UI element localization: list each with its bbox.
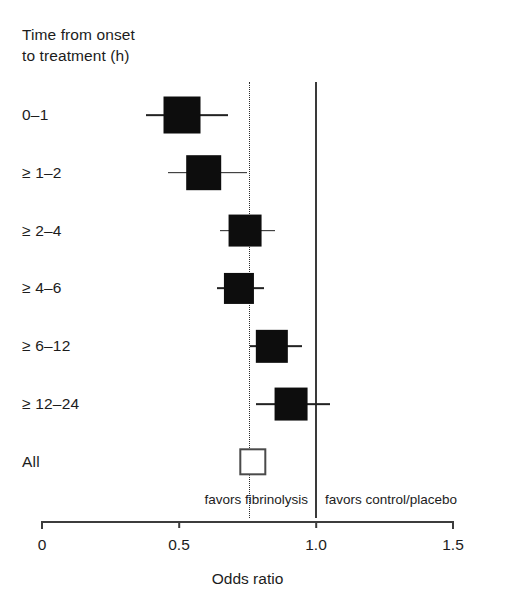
reference-line-unity	[315, 82, 317, 518]
row-label: ≥ 1–2	[22, 164, 62, 182]
axis-end-cap	[452, 521, 454, 529]
row-label: 0–1	[22, 106, 48, 124]
axis-tick-label: 0.5	[168, 536, 190, 554]
forest-plot: Time from onset to treatment (h) 0–1≥ 1–…	[0, 0, 511, 608]
chart-header-label: Time from onset to treatment (h)	[22, 24, 135, 66]
pooled-estimate-marker	[239, 448, 266, 475]
row-label: All	[22, 453, 40, 471]
axis-tick	[315, 521, 317, 528]
study-estimate-marker	[256, 330, 288, 362]
axis-tick-label: 1.0	[305, 536, 327, 554]
axis-end-cap	[41, 521, 43, 529]
row-label: ≥ 2–4	[22, 222, 62, 240]
study-estimate-marker	[163, 97, 200, 134]
row-label: ≥ 12–24	[22, 395, 79, 413]
study-estimate-marker	[228, 214, 261, 247]
axis-baseline	[42, 521, 453, 523]
favors-fibrinolysis-label: favors fibrinolysis	[204, 492, 308, 507]
x-axis-title: Odds ratio	[212, 570, 284, 588]
study-estimate-marker	[275, 388, 308, 421]
favors-control-label: favors control/placebo	[325, 492, 457, 507]
study-estimate-marker	[224, 273, 254, 303]
row-label: ≥ 4–6	[22, 279, 62, 297]
axis-tick-label: 0	[38, 536, 47, 554]
study-estimate-marker	[186, 155, 222, 191]
axis-tick-label: 1.5	[442, 536, 464, 554]
row-label: ≥ 6–12	[22, 337, 71, 355]
axis-tick	[178, 521, 180, 528]
